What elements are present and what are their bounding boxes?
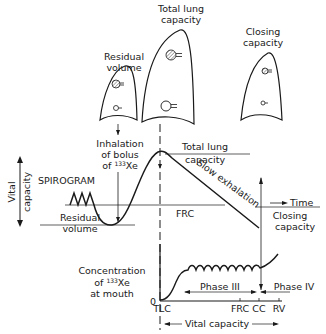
alveolus-large-icon [262,68,268,74]
lung-rv-label-1: Residual [104,51,144,62]
svg-text:Closing: Closing [273,210,308,221]
lung-total-lung-capacity: Total lung capacity [142,3,204,124]
svg-text:CC: CC [252,303,266,314]
svg-text:of 133Xe: of 133Xe [102,160,138,171]
svg-text:of bolus: of bolus [101,149,139,160]
svg-text:FRC: FRC [176,208,195,219]
svg-text:capacity: capacity [275,221,315,232]
phase-4-label: Phase IV [274,281,315,292]
concentration-curve [160,254,278,300]
single-breath-nitrogen-diagram: Residual volume Total lung capacity Clos… [0,0,326,334]
vital-label-2: capacity [21,172,32,212]
alveolus-small-icon [114,106,119,111]
spirogram-title: SPIROGRAM [38,175,95,186]
lung-rv-label-2: volume [106,62,141,73]
svg-text:Concentration: Concentration [78,265,145,276]
svg-text:at mouth: at mouth [90,288,133,299]
svg-text:Residual: Residual [60,212,100,223]
alveolus-open-icon [161,101,171,111]
lung-cc-label-1: Closing [246,26,281,37]
lung-tlc-label-2: capacity [161,14,201,25]
lung-cc-label-2: capacity [243,37,283,48]
alveolus-small-icon [261,101,265,105]
svg-text:of 133Xe: of 133Xe [94,277,130,288]
vital-capacity-axis: Vital capacity [6,156,32,227]
lung-tlc-label-1: Total lung [157,3,204,14]
lung-closing-capacity: Closing capacity [241,26,283,120]
lung-residual-volume: Residual volume [100,51,144,120]
alveolus-large-icon [112,80,120,88]
diagram-canvas: Residual volume Total lung capacity Clos… [0,0,326,334]
slow-exhalation-label: Slow exhalation [195,157,262,210]
vital-capacity-xlabel: Vital capacity [185,318,250,329]
vital-label-1: Vital [6,181,17,202]
svg-text:RV: RV [273,303,286,314]
inhalation-label: Inhalation of bolus of 133Xe [96,138,143,171]
concentration-plot: Concentration of 133Xe at mouth 0 TLC FR… [78,244,314,329]
alveolus-large-icon [166,50,176,60]
time-label: Time [289,197,313,208]
svg-text:volume: volume [62,223,97,234]
svg-text:Total lung: Total lung [181,141,228,152]
svg-text:FRC: FRC [231,303,250,314]
svg-text:Inhalation: Inhalation [96,138,143,149]
svg-text:TLC: TLC [152,303,171,314]
phase-3-label: Phase III [200,281,240,292]
